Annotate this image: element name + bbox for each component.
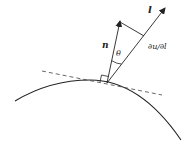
label-n: n <box>102 40 109 50</box>
label-derivative: ∂u/∂l <box>148 42 167 51</box>
label-theta: θ <box>116 49 121 58</box>
projection-line <box>120 22 144 36</box>
label-l: l <box>148 4 152 15</box>
angle-arc <box>112 61 122 64</box>
diagram-canvas: l n θ ∂u/∂l <box>0 0 189 152</box>
diagram-svg: l n θ ∂u/∂l <box>0 0 189 152</box>
boundary-curve <box>15 80 181 140</box>
